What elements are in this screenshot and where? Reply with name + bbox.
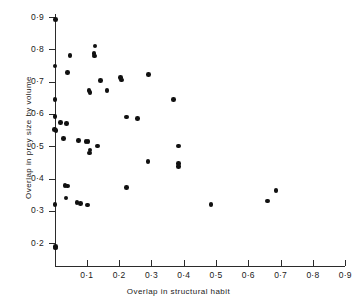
y-axis-tick-label: 0·8 <box>31 45 44 54</box>
data-point <box>64 121 69 126</box>
y-axis-tick <box>49 179 55 180</box>
data-point <box>176 164 181 169</box>
data-point <box>209 202 214 207</box>
y-axis-tick-label: 0·6 <box>31 109 44 118</box>
x-axis-tick-label: 0·6 <box>242 271 255 280</box>
y-axis-title: Overlap in prey size by volume <box>24 48 33 228</box>
y-axis-tick-label: 0·7 <box>31 77 44 86</box>
y-axis-tick-label: 0·9 <box>31 13 44 22</box>
data-point <box>53 246 58 251</box>
data-point <box>88 90 93 95</box>
x-axis-tick <box>345 260 346 266</box>
data-point <box>124 115 129 120</box>
data-point <box>78 201 83 206</box>
data-point <box>53 17 58 22</box>
data-point <box>146 72 151 77</box>
data-point <box>65 70 70 75</box>
x-axis-tick <box>216 260 217 266</box>
x-axis-tick-label: 0·3 <box>145 271 158 280</box>
x-axis-tick-label: 0·1 <box>80 271 93 280</box>
y-axis-tick-label: 0·4 <box>31 174 44 183</box>
plot-area <box>55 14 345 266</box>
data-point <box>76 138 81 143</box>
data-point <box>92 54 97 59</box>
x-axis-title: Overlap in structural habit <box>0 287 357 296</box>
x-axis-tick <box>281 260 282 266</box>
data-point <box>176 144 181 149</box>
data-point <box>124 185 129 190</box>
x-axis-tick <box>151 260 152 266</box>
data-point <box>53 114 58 119</box>
x-axis-tick-label: 0·7 <box>274 271 287 280</box>
y-axis-tick <box>49 82 55 83</box>
y-axis-tick <box>49 49 55 50</box>
x-axis-tick-label: 0·4 <box>177 271 190 280</box>
x-axis-line <box>55 266 345 267</box>
y-axis-tick <box>49 211 55 212</box>
x-axis-tick <box>87 260 88 266</box>
y-axis-tick <box>49 146 55 147</box>
data-point <box>53 97 58 102</box>
scatter-plot-figure: Overlap in structural habit Overlap in p… <box>0 0 357 305</box>
y-axis-tick-label: 0·2 <box>31 239 44 248</box>
data-point <box>119 78 124 83</box>
x-axis-tick-label: 0·5 <box>210 271 223 280</box>
x-axis-tick <box>313 260 314 266</box>
data-point <box>135 116 140 121</box>
data-point <box>98 78 103 83</box>
data-point <box>105 88 110 93</box>
x-axis-tick <box>248 260 249 266</box>
y-axis-tick-label: 0·3 <box>31 206 44 215</box>
x-axis-tick <box>184 260 185 266</box>
x-axis-tick-label: 0·8 <box>306 271 319 280</box>
data-point <box>58 120 63 125</box>
x-axis-tick <box>119 260 120 266</box>
x-axis-tick-label: 0·9 <box>339 271 352 280</box>
x-axis-tick-label: 0·2 <box>113 271 126 280</box>
data-point <box>54 128 59 133</box>
y-axis-tick-label: 0·5 <box>31 142 44 151</box>
data-point <box>171 97 176 102</box>
data-point <box>61 136 66 141</box>
